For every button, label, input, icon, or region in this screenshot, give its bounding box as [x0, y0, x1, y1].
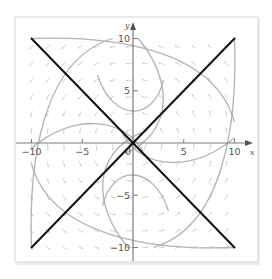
x-tick-label: 5: [181, 146, 187, 157]
x-tick-label: −10: [21, 146, 41, 157]
y-tick-label: −10: [110, 242, 130, 253]
y-tick-label: −5: [116, 190, 130, 201]
x-axis-label: x: [250, 148, 255, 157]
x-tick-label: −5: [75, 146, 89, 157]
y-tick-label: 5: [124, 85, 130, 96]
x-tick-label: 10: [228, 146, 240, 157]
phase-portrait-figure: x y −10−50510 105−5−10: [0, 0, 272, 279]
y-tick-label: 10: [118, 33, 130, 44]
equilibrium-point: [131, 141, 135, 145]
y-axis-label: y: [124, 21, 130, 30]
